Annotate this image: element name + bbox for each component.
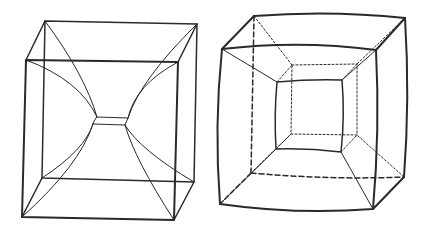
right-cube-diagram [217, 13, 407, 211]
left-front-face [22, 60, 178, 220]
hidden-edge [251, 173, 404, 178]
right-inner-square [275, 80, 343, 152]
right-inner-dotted-square [291, 64, 357, 135]
left-cube-diagram [22, 21, 197, 220]
left-back-face [42, 21, 197, 182]
figure [0, 0, 433, 231]
left-center-square [93, 117, 128, 125]
hidden-edge [251, 16, 254, 173]
